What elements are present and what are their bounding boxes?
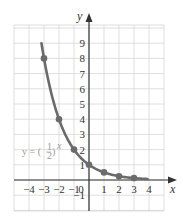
x-tick-label: −3 xyxy=(38,183,50,195)
exponential-chart: x y −4−3−2−101234 987654321−1 y = ( 1 2 … xyxy=(0,0,183,224)
y-tick-label: 7 xyxy=(80,68,86,80)
x-tick-label: 4 xyxy=(146,183,152,195)
y-tick-label: 6 xyxy=(80,83,86,95)
function-curve xyxy=(41,43,147,179)
y-tick-label: 8 xyxy=(80,52,86,64)
y-tick-label: 9 xyxy=(80,37,86,49)
x-tick-label: 2 xyxy=(116,183,122,195)
data-point xyxy=(41,55,48,62)
svg-text:x: x xyxy=(56,140,62,151)
data-point xyxy=(101,169,108,176)
data-point xyxy=(131,175,138,182)
y-axis-arrow-icon xyxy=(86,13,93,22)
y-tick-label: 2 xyxy=(80,144,86,156)
equation-label: y = ( 1 2 ) x xyxy=(22,140,62,161)
x-axis-label: x xyxy=(169,182,176,196)
data-point xyxy=(56,116,63,123)
y-tick-label: 5 xyxy=(80,98,86,110)
x-tick-label: 3 xyxy=(131,183,137,195)
data-point xyxy=(71,146,78,153)
y-axis-label: y xyxy=(76,9,83,23)
svg-text:y = (: y = ( xyxy=(22,146,42,158)
data-point xyxy=(116,173,123,180)
y-tick-label: −1 xyxy=(73,189,85,201)
x-tick-label: −2 xyxy=(53,183,65,195)
x-tick-label: −4 xyxy=(23,183,35,195)
y-axis xyxy=(86,13,93,211)
y-tick-label: 3 xyxy=(80,128,86,140)
y-tick-label: 4 xyxy=(80,113,86,125)
data-point xyxy=(86,162,93,169)
x-tick-label: 1 xyxy=(101,183,107,195)
svg-text:): ) xyxy=(52,146,55,158)
x-tick-labels: −4−3−2−101234 xyxy=(23,183,152,195)
